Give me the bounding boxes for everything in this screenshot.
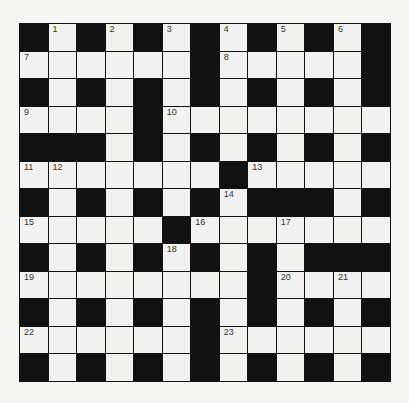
answer-square[interactable]: 2 [106, 24, 134, 51]
answer-square[interactable]: 16 [191, 217, 219, 244]
answer-square[interactable]: 14 [220, 189, 248, 216]
answer-square[interactable] [106, 189, 134, 216]
answer-square[interactable] [305, 327, 333, 354]
answer-square[interactable] [49, 189, 77, 216]
answer-square[interactable] [277, 79, 305, 106]
answer-square[interactable] [220, 107, 248, 134]
answer-square[interactable]: 5 [277, 24, 305, 51]
answer-square[interactable] [305, 52, 333, 79]
answer-square[interactable]: 15 [20, 217, 48, 244]
answer-square[interactable] [305, 107, 333, 134]
answer-square[interactable] [334, 217, 362, 244]
answer-square[interactable] [163, 79, 191, 106]
answer-square[interactable] [362, 272, 390, 299]
answer-square[interactable] [77, 52, 105, 79]
answer-square[interactable]: 17 [277, 217, 305, 244]
answer-square[interactable] [220, 354, 248, 381]
answer-square[interactable] [220, 272, 248, 299]
answer-square[interactable]: 9 [20, 107, 48, 134]
answer-square[interactable] [334, 327, 362, 354]
answer-square[interactable] [362, 162, 390, 189]
answer-square[interactable] [106, 244, 134, 271]
answer-square[interactable] [49, 79, 77, 106]
answer-square[interactable] [163, 189, 191, 216]
answer-square[interactable] [49, 327, 77, 354]
answer-square[interactable] [277, 327, 305, 354]
answer-square[interactable] [77, 107, 105, 134]
answer-square[interactable] [305, 217, 333, 244]
answer-square[interactable] [334, 134, 362, 161]
answer-square[interactable]: 23 [220, 327, 248, 354]
answer-square[interactable] [134, 272, 162, 299]
answer-square[interactable] [362, 327, 390, 354]
answer-square[interactable]: 21 [334, 272, 362, 299]
answer-square[interactable]: 20 [277, 272, 305, 299]
answer-square[interactable]: 18 [163, 244, 191, 271]
answer-square[interactable] [49, 272, 77, 299]
answer-square[interactable] [106, 134, 134, 161]
answer-square[interactable] [49, 354, 77, 381]
answer-square[interactable] [334, 299, 362, 326]
answer-square[interactable] [106, 299, 134, 326]
answer-square[interactable] [134, 217, 162, 244]
answer-square[interactable] [134, 162, 162, 189]
answer-square[interactable] [334, 189, 362, 216]
answer-square[interactable] [163, 272, 191, 299]
answer-square[interactable] [248, 327, 276, 354]
answer-square[interactable] [191, 107, 219, 134]
answer-square[interactable] [248, 217, 276, 244]
answer-square[interactable] [106, 217, 134, 244]
answer-square[interactable] [334, 52, 362, 79]
answer-square[interactable] [362, 107, 390, 134]
answer-square[interactable]: 3 [163, 24, 191, 51]
answer-square[interactable]: 8 [220, 52, 248, 79]
answer-square[interactable] [163, 162, 191, 189]
answer-square[interactable]: 12 [49, 162, 77, 189]
answer-square[interactable]: 7 [20, 52, 48, 79]
answer-square[interactable] [49, 299, 77, 326]
answer-square[interactable] [220, 299, 248, 326]
answer-square[interactable] [277, 162, 305, 189]
answer-square[interactable] [134, 52, 162, 79]
answer-square[interactable] [362, 217, 390, 244]
answer-square[interactable] [49, 217, 77, 244]
answer-square[interactable]: 13 [248, 162, 276, 189]
answer-square[interactable] [49, 107, 77, 134]
answer-square[interactable] [305, 162, 333, 189]
answer-square[interactable] [220, 79, 248, 106]
answer-square[interactable] [248, 107, 276, 134]
answer-square[interactable] [305, 272, 333, 299]
answer-square[interactable] [220, 217, 248, 244]
answer-square[interactable] [191, 162, 219, 189]
answer-square[interactable] [77, 327, 105, 354]
answer-square[interactable]: 1 [49, 24, 77, 51]
answer-square[interactable] [334, 354, 362, 381]
answer-square[interactable] [277, 107, 305, 134]
answer-square[interactable] [220, 244, 248, 271]
answer-square[interactable] [49, 244, 77, 271]
answer-square[interactable] [277, 299, 305, 326]
answer-square[interactable] [106, 52, 134, 79]
answer-square[interactable] [277, 354, 305, 381]
answer-square[interactable] [191, 272, 219, 299]
answer-square[interactable]: 19 [20, 272, 48, 299]
answer-square[interactable] [334, 162, 362, 189]
answer-square[interactable] [334, 79, 362, 106]
answer-square[interactable] [106, 354, 134, 381]
answer-square[interactable]: 10 [163, 107, 191, 134]
answer-square[interactable] [106, 79, 134, 106]
answer-square[interactable] [277, 134, 305, 161]
answer-square[interactable] [163, 134, 191, 161]
answer-square[interactable] [106, 162, 134, 189]
answer-square[interactable] [220, 134, 248, 161]
answer-square[interactable] [49, 52, 77, 79]
answer-square[interactable]: 6 [334, 24, 362, 51]
answer-square[interactable] [77, 272, 105, 299]
answer-square[interactable] [163, 299, 191, 326]
answer-square[interactable]: 11 [20, 162, 48, 189]
answer-square[interactable] [134, 327, 162, 354]
answer-square[interactable] [163, 327, 191, 354]
answer-square[interactable] [277, 244, 305, 271]
answer-square[interactable] [163, 354, 191, 381]
answer-square[interactable] [77, 162, 105, 189]
